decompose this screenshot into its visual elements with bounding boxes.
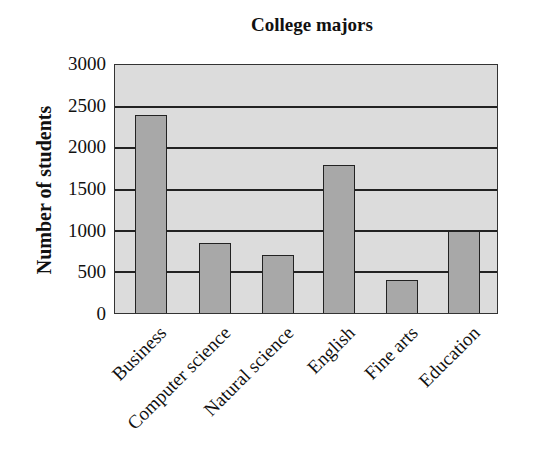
- gridline: [115, 147, 497, 149]
- gridline: [115, 230, 497, 232]
- bar-computer-science: [199, 243, 231, 313]
- gridline: [115, 271, 497, 273]
- plot-area: [114, 64, 498, 314]
- bar-fine-arts: [386, 280, 418, 313]
- y-tick-label: 2000: [68, 136, 106, 158]
- y-tick-label: 1000: [68, 220, 106, 242]
- y-tick-label: 2500: [68, 95, 106, 117]
- y-tick-label: 3000: [68, 53, 106, 75]
- bar-business: [135, 115, 167, 313]
- bar-education: [448, 231, 480, 313]
- bar-natural-science: [262, 255, 294, 313]
- chart-title: College majors: [0, 14, 534, 36]
- x-tick-label: Business: [108, 322, 171, 385]
- y-tick-label: 0: [97, 303, 107, 325]
- gridline: [115, 106, 497, 108]
- gridline: [115, 189, 497, 191]
- x-tick-label: Fine arts: [360, 322, 422, 384]
- bar-english: [323, 165, 355, 313]
- x-tick-label: Education: [415, 322, 485, 392]
- y-axis-label: Number of students: [33, 106, 56, 275]
- x-tick-label: English: [303, 322, 360, 379]
- y-tick-label: 1500: [68, 178, 106, 200]
- y-tick-label: 500: [78, 261, 107, 283]
